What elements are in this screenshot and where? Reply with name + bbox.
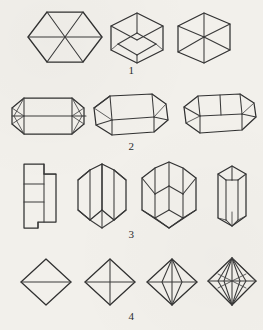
figure-v-twin-prism-edge-on xyxy=(206,160,258,234)
row-label-4: 4 xyxy=(0,310,263,322)
figure-hexagonal-prism-flat-elevation xyxy=(10,92,88,140)
figure-row-3: 3 xyxy=(0,158,263,236)
figure-row-1: 1 xyxy=(0,6,263,64)
figure-rhombohedron-isometric-near-vertex xyxy=(106,10,168,66)
figure-cube-isometric-offset-vertex xyxy=(172,9,236,67)
figure-v-twin-prism-frontal xyxy=(136,158,202,236)
figure-rhombic-bipyramid-multiple-inscribed xyxy=(202,252,262,312)
figure-row-4: 4 xyxy=(0,252,263,314)
figure-row-2: 2 xyxy=(0,88,263,144)
crystal-form-plate: 1 xyxy=(0,0,263,330)
figure-v-twin-prism-oblique xyxy=(74,158,134,234)
figure-rhombic-bipyramid-simple xyxy=(16,254,76,312)
figure-orthographic-projection-rectangles xyxy=(18,160,70,232)
figure-hexagonal-prism-steeply-tilted xyxy=(180,90,260,140)
figure-hexagonal-prism-tilted xyxy=(90,90,174,142)
figure-rhombic-bipyramid-inscribed-lens xyxy=(142,254,202,312)
figure-hexagon-with-three-diagonals xyxy=(24,8,106,66)
figure-rhombic-bipyramid-cross-axes xyxy=(80,254,140,312)
row-label-3: 3 xyxy=(0,228,263,240)
row-label-1: 1 xyxy=(0,64,263,76)
row-label-2: 2 xyxy=(0,140,263,152)
